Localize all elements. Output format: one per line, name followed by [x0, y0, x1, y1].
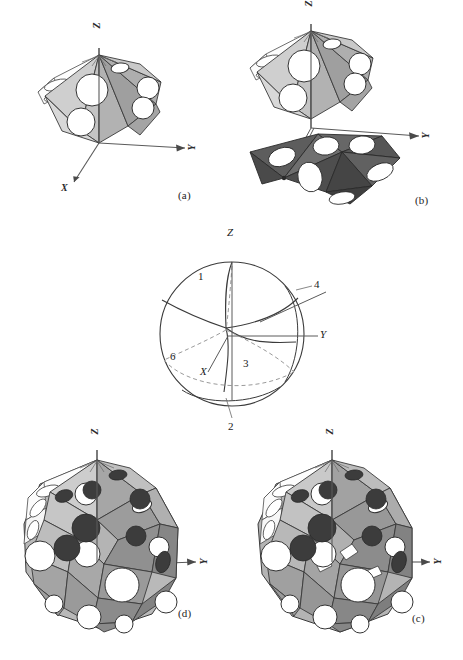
panel-b-caption: (b) [415, 194, 428, 206]
figure-root: Z Y X (a) [0, 0, 463, 660]
panel-c-z-axis-label: Z [324, 428, 335, 434]
panel-b-y-arrowhead [409, 132, 419, 139]
panel-b: Z Y (b) [222, 0, 463, 220]
panel-b-y-axis-label: Y [420, 132, 431, 138]
sphere-region-1-label: 1 [198, 270, 204, 282]
panel-d-caption: (d) [178, 607, 191, 619]
sphere-region-3-label: 3 [243, 357, 249, 369]
panel-c-caption: (c) [412, 612, 425, 624]
panel-c-illustration [232, 432, 463, 660]
panel-a-illustration [0, 0, 231, 220]
panel-a-y-axis-label: Y [186, 144, 197, 150]
sphere-region-6-label: 6 [170, 350, 176, 362]
panel-c-y-axis-label: Y [432, 558, 443, 564]
panel-a-y-arrowhead [176, 145, 185, 152]
panel-d-y-arrowhead [187, 558, 196, 565]
panel-b-connector-node [282, 176, 286, 180]
panel-a-caption: (a) [178, 189, 191, 201]
panel-d-illustration [0, 432, 231, 660]
panel-a-x-arrowhead [73, 176, 79, 182]
panel-c-y-arrowhead [421, 558, 430, 565]
sphere-hidden-axes [164, 266, 294, 386]
panel-a-x-axis-label: X [61, 182, 68, 193]
sphere-y-axis-label: Y [320, 328, 326, 340]
panel-d-y-axis-label: Y [198, 558, 209, 564]
panel-c: Z Y (c) [232, 432, 463, 660]
sphere-z-axis-label: Z [227, 226, 233, 238]
panel-b-z-axis-label: Z [303, 0, 314, 6]
sphere-diagram: Z Y X 1 2 3 4 6 [130, 232, 350, 437]
panel-d-z-axis-label: Z [89, 428, 100, 434]
panel-a-z-axis-label: Z [91, 22, 102, 28]
panel-b-illustration [222, 0, 463, 220]
panel-a: Z Y X (a) [0, 0, 231, 220]
sphere-bottom-arc [182, 387, 280, 401]
sphere-region-2-label: 2 [228, 420, 234, 432]
sphere-diagram-illustration [130, 232, 350, 437]
sphere-leader-lines [226, 286, 312, 418]
sphere-region-4-label: 4 [314, 278, 320, 290]
sphere-x-axis-label: X [200, 365, 207, 377]
panel-d: Z Y (d) [0, 432, 231, 660]
